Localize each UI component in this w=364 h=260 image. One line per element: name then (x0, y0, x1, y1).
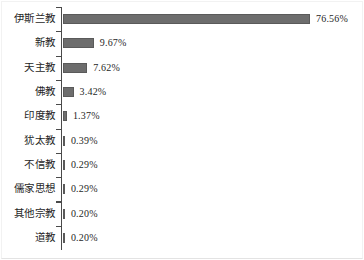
axis-tick (56, 104, 62, 105)
bar (63, 136, 65, 146)
bar-row: 不信教0.29% (0, 153, 364, 177)
axis-tick (56, 31, 62, 32)
category-label: 不信教 (0, 159, 55, 171)
axis-tick (56, 56, 62, 57)
bar-value-label: 0.29% (71, 183, 98, 195)
plot-area: 伊斯兰教76.56%新教9.67%天主教7.62%佛教3.42%印度教1.37%… (0, 0, 364, 260)
bar-value-label: 1.37% (73, 110, 100, 122)
category-label: 印度教 (0, 110, 55, 122)
bar-value-label: 3.42% (80, 86, 107, 98)
bar (63, 160, 65, 170)
bar-value-label: 0.39% (71, 135, 98, 147)
axis-tick (56, 201, 62, 202)
bar-row: 天主教7.62% (0, 56, 364, 80)
bar (63, 111, 67, 121)
bar-row: 道教0.20% (0, 226, 364, 250)
category-label: 犹太教 (0, 135, 55, 147)
axis-tick (56, 7, 62, 8)
bar-value-label: 9.67% (100, 37, 127, 49)
category-label: 佛教 (0, 86, 55, 98)
axis-tick (56, 129, 62, 130)
bar (63, 184, 65, 194)
axis-tick (56, 177, 62, 178)
bar-row: 其他宗教0.20% (0, 201, 364, 225)
category-label: 新教 (0, 37, 55, 49)
bar-row: 伊斯兰教76.56% (0, 7, 364, 31)
bar-row: 印度教1.37% (0, 104, 364, 128)
bar-value-label: 0.20% (71, 232, 98, 244)
bar-value-label: 76.56% (316, 13, 348, 25)
bar (63, 38, 94, 48)
category-label: 伊斯兰教 (0, 13, 55, 25)
bar-chart: 伊斯兰教76.56%新教9.67%天主教7.62%佛教3.42%印度教1.37%… (0, 0, 364, 260)
bar (63, 233, 65, 243)
bar-row: 儒家思想0.29% (0, 177, 364, 201)
bar-value-label: 0.20% (71, 208, 98, 220)
category-label: 儒家思想 (0, 183, 55, 195)
bar-value-label: 0.29% (71, 159, 98, 171)
axis-tick (56, 226, 62, 227)
bar (63, 87, 74, 97)
bar (63, 209, 65, 219)
bar-row: 犹太教0.39% (0, 129, 364, 153)
category-label: 道教 (0, 232, 55, 244)
bar (63, 63, 88, 73)
bar-value-label: 7.62% (93, 62, 120, 74)
axis-tick (56, 80, 62, 81)
category-label: 其他宗教 (0, 208, 55, 220)
bar-row: 新教9.67% (0, 31, 364, 55)
bar-row: 佛教3.42% (0, 80, 364, 104)
bar (63, 14, 311, 24)
axis-tick (56, 153, 62, 154)
category-label: 天主教 (0, 62, 55, 74)
